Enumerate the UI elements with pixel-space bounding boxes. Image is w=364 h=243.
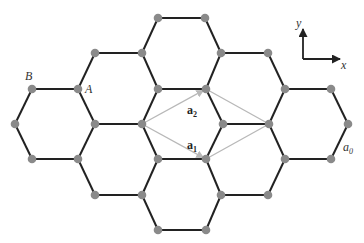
lattice-site [74, 85, 83, 94]
lattice-site [138, 120, 147, 129]
a1-subscript: 1 [193, 145, 197, 154]
lattice-site [281, 155, 290, 164]
lattice-site [344, 120, 353, 129]
lattice-site [91, 49, 100, 58]
lattice-site [264, 49, 273, 58]
lattice-site [28, 85, 37, 94]
vector-label-a1: a1 [187, 138, 197, 154]
lattice-sites [11, 14, 353, 235]
bond [142, 89, 158, 124]
lattice-site [219, 120, 228, 129]
bond [15, 89, 32, 124]
lattice-site [202, 155, 211, 164]
lattice-site [265, 120, 274, 129]
lattice-site [11, 120, 20, 129]
bond [78, 124, 95, 159]
lattice-site [201, 14, 210, 23]
bond [142, 124, 158, 159]
coordinate-axes [303, 29, 340, 59]
lattice-site [202, 226, 211, 235]
lattice-site [264, 191, 273, 200]
bond [206, 53, 221, 89]
lattice-site [217, 191, 226, 200]
bond [15, 124, 32, 159]
bond [269, 89, 285, 124]
bond [142, 53, 158, 89]
lattice-bonds [15, 18, 348, 230]
bond [268, 53, 285, 89]
a2-subscript: 2 [193, 110, 197, 119]
bond [268, 159, 285, 195]
bond [205, 18, 221, 53]
a0-subscript: 0 [349, 147, 353, 156]
lattice-site [91, 191, 100, 200]
bond [269, 124, 285, 159]
lattice-site [154, 14, 163, 23]
lattice-site [327, 85, 336, 94]
lattice-site [28, 155, 37, 164]
lattice-site [91, 120, 100, 129]
bond [206, 195, 221, 230]
x-axis-label: x [340, 58, 347, 72]
lattice-site [217, 49, 226, 58]
lattice-site [202, 85, 211, 94]
bond [78, 159, 95, 195]
lattice-site [327, 155, 336, 164]
bond [142, 159, 158, 195]
bond [206, 159, 221, 195]
vector-label-a2: a2 [187, 103, 197, 119]
lattice-site [138, 191, 147, 200]
honeycomb-lattice-diagram: B A a0 a1 a2 x y [0, 0, 364, 243]
site-label-b: B [25, 69, 33, 83]
bond [142, 195, 158, 230]
site-label-a: A [84, 82, 93, 96]
bond [142, 18, 158, 53]
lattice-site [154, 226, 163, 235]
lattice-site [154, 155, 163, 164]
lattice-site [154, 85, 163, 94]
bond [331, 89, 348, 124]
lattice-site [74, 155, 83, 164]
lattice-site [281, 85, 290, 94]
bond-length-label-a0: a0 [343, 140, 353, 156]
lattice-site [138, 49, 147, 58]
y-axis-label: y [295, 16, 302, 30]
